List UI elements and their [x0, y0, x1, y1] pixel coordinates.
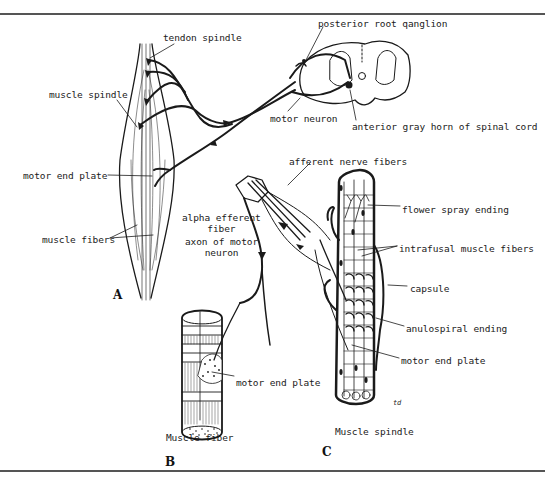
label-intrafusal-muscle-fibers: intrafusal muscle fibers: [399, 243, 534, 254]
label-muscle-fibers: muscle fibers: [42, 234, 115, 245]
anatomy-figure: tendon spindle muscle spindle motor end …: [0, 0, 545, 491]
panel-label-a: A: [113, 288, 122, 302]
leader-lines: [108, 27, 356, 238]
label-muscle-spindle: muscle spindle: [49, 89, 128, 100]
label-flower-spray-ending: flower spray ending: [402, 204, 509, 215]
label-motor-end-plate-c: motor end plate: [401, 355, 485, 366]
panel-label-c: C: [322, 445, 332, 459]
caption-muscle-spindle: Muscle spindle: [335, 426, 414, 437]
spinal-cord-cross-section: [290, 41, 410, 105]
caption-muscle-fiber: Muscle fiber: [166, 432, 233, 443]
label-motor-end-plate-a: motor end plate: [23, 170, 107, 181]
label-anterior-gray-horn: anterior gray horn of spinal cord: [352, 121, 537, 132]
label-axon-of-motor-neuron: axon of motor neuron: [185, 236, 258, 258]
label-motor-end-plate-b: motor end plate: [236, 377, 320, 388]
label-alpha-efferent-fiber: alpha efferent fiber: [182, 212, 261, 234]
label-motor-neuron: motor neuron: [270, 113, 337, 124]
label-afferent-nerve-fibers: afferent nerve fibers: [289, 156, 407, 167]
label-tendon-spindle: tendon spindle: [163, 32, 242, 43]
artist-initials: td: [393, 398, 401, 409]
label-anulospiral-ending: anulospiral ending: [406, 323, 507, 334]
nerve-bundle-cut-end: [236, 176, 330, 345]
panel-label-b: B: [165, 455, 175, 469]
label-capsule: capsule: [410, 283, 449, 294]
muscle-fiber-illustration: [182, 303, 240, 440]
label-posterior-root-ganglion: posterior root qanglion: [318, 18, 447, 29]
